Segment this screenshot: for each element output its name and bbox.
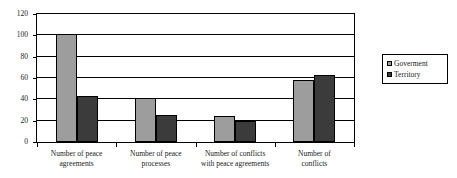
x-category-label-line: Number of peace [130,149,182,159]
bar [314,75,335,142]
legend-entry[interactable]: Territory [387,71,444,79]
legend-label: Territory [394,71,421,79]
legend-swatch-icon [387,61,392,66]
x-axis: Number of peaceagreementsNumber of peace… [36,143,355,178]
x-tick-mark [116,143,117,147]
y-tick-label: 120 [17,10,28,18]
bar [214,116,235,142]
x-category-label: Number of peaceagreements [51,149,103,168]
x-category-label: Number of conflictswith peace agreements [201,149,269,168]
x-category-label-line: processes [130,159,182,169]
x-tick-mark [196,143,197,147]
bar [77,96,98,142]
legend-label: Goverment [394,60,428,68]
y-tick-label: 40 [21,96,29,104]
x-category-label: Number of peaceprocesses [130,149,182,168]
legend-entry[interactable]: Goverment [387,60,444,68]
bar-group [275,14,354,142]
x-category-label-line: agreements [51,159,103,169]
bar [235,121,256,142]
bar-group [37,14,116,142]
x-category-label-line: Number of conflicts [201,149,269,159]
y-axis: 020406080100120 [0,0,34,178]
y-tick-label: 0 [24,138,28,146]
y-tick-label: 20 [21,117,29,125]
x-tick-mark [275,143,276,147]
x-category-label: Number of conflicts [294,149,335,168]
bar [56,34,77,142]
bar [156,115,177,142]
x-tick-mark [37,143,38,147]
x-tick-mark [354,143,355,147]
chart-legend: GovermentTerritory [382,54,448,84]
bar [135,98,156,142]
y-tick-label: 100 [17,32,28,40]
bar-group [196,14,275,142]
y-tick-label: 80 [21,53,29,61]
x-category-label-line: Number of peace [51,149,103,159]
bar-chart: 020406080100120 Number of peaceagreement… [0,0,457,178]
legend-swatch-icon [387,72,392,77]
bar-group [116,14,195,142]
bars-layer [37,14,354,142]
x-category-label-line: with peace agreements [201,159,269,169]
y-tick-label: 60 [21,74,29,82]
bar [293,80,314,142]
x-category-label-line: Number of conflicts [294,149,335,168]
